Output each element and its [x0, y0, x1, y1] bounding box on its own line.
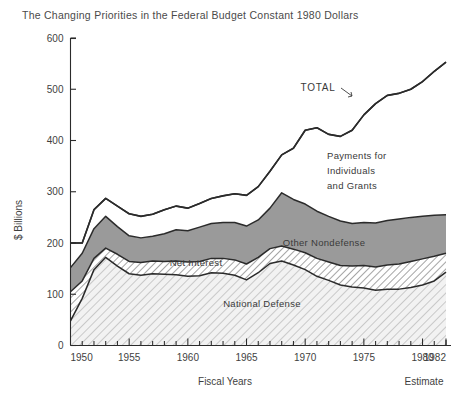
x-tick-label: 1950 — [71, 352, 94, 363]
y-tick-label: 100 — [47, 289, 64, 300]
x-tick-label: 1955 — [118, 352, 141, 363]
payments-label-line-1: Payments for — [327, 150, 387, 161]
x-tick-label: 1960 — [177, 352, 200, 363]
y-tick-label: 0 — [58, 340, 64, 351]
total-leader-line — [341, 88, 352, 97]
x-axis-title: Fiscal Years — [198, 376, 252, 387]
national-defense-label: National Defense — [223, 298, 301, 309]
total-label: TOTAL — [301, 82, 336, 93]
other-nondefense-label: Other Nondefense — [283, 237, 365, 248]
x-tick-label: 1982 — [424, 352, 447, 363]
chart-container: The Changing Priorities in the Federal B… — [0, 0, 467, 398]
payments-label-line-2: Individuals — [327, 165, 375, 176]
x-tick-label: 1970 — [294, 352, 317, 363]
y-tick-label: 600 — [47, 33, 64, 44]
total-callout: TOTAL — [301, 82, 352, 97]
estimate-note: Estimate — [405, 376, 444, 387]
net-interest-label: Net Interest — [170, 257, 223, 268]
budget-area-chart: 0100200300400500600 19501955196019651970… — [0, 0, 467, 398]
y-tick-label: 200 — [47, 238, 64, 249]
x-tick-label: 1975 — [353, 352, 376, 363]
y-tick-label: 400 — [47, 135, 64, 146]
payments-label-line-3: and Grants — [327, 180, 377, 191]
y-axis-title: $ Billions — [13, 200, 24, 240]
y-tick-label: 500 — [47, 84, 64, 95]
x-tick-label: 1965 — [235, 352, 258, 363]
y-tick-label: 300 — [47, 186, 64, 197]
